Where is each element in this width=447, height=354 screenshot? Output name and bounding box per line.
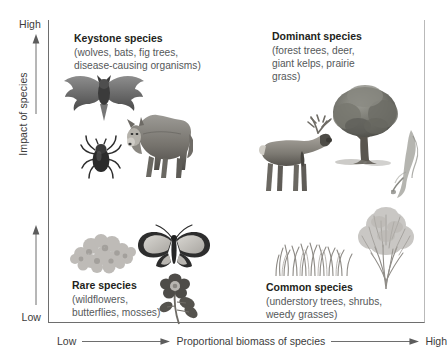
wolf-illustration bbox=[113, 104, 193, 180]
kelp-illustration bbox=[391, 128, 425, 200]
quadrant-title: Common species bbox=[266, 281, 382, 295]
shrub-illustration bbox=[355, 205, 417, 289]
quadrant-label-keystone: Keystone species (wolves, bats, fig tree… bbox=[74, 32, 201, 72]
x-axis-title: Proportional biomass of species bbox=[176, 335, 325, 347]
quadrant-examples: (forest trees, deer, giant kelps, prairi… bbox=[272, 44, 362, 84]
quadrant-examples: (understory trees, shrubs, weedy grasses… bbox=[266, 295, 382, 321]
arrow-up-icon bbox=[31, 225, 41, 305]
y-axis: High Low Impact of species bbox=[0, 12, 48, 327]
grass-illustration bbox=[274, 236, 356, 276]
quadrant-examples: (wolves, bats, fig trees, disease-causin… bbox=[74, 46, 201, 72]
quadrant-title: Rare species bbox=[72, 279, 160, 293]
arrow-up-icon bbox=[31, 34, 41, 114]
x-axis: Low Proportional biomass of species High bbox=[48, 326, 447, 354]
quadrant-label-dominant: Dominant species (forest trees, deer, gi… bbox=[272, 30, 362, 83]
y-axis-title: Impact of species bbox=[17, 44, 29, 184]
quadrant-label-common: Common species (understory trees, shrubs… bbox=[266, 281, 382, 321]
y-axis-low-label: Low bbox=[21, 311, 41, 323]
species-impact-biomass-figure: High Low Impact of species Low bbox=[0, 0, 447, 354]
quadrant-examples: (wildflowers, butterflies, mosses) bbox=[72, 293, 160, 319]
arrow-right-icon bbox=[82, 337, 170, 346]
moss-illustration bbox=[67, 230, 139, 276]
quadrant-title: Dominant species bbox=[272, 30, 362, 44]
butterfly-illustration bbox=[135, 224, 213, 276]
y-axis-high-label: High bbox=[19, 18, 41, 30]
quadrant-label-rare: Rare species (wildflowers, butterflies, … bbox=[72, 279, 160, 319]
arrow-right-icon bbox=[331, 337, 419, 346]
wildflower-illustration bbox=[157, 270, 203, 326]
x-axis-high-label: High bbox=[425, 335, 447, 347]
quadrant-title: Keystone species bbox=[74, 32, 201, 46]
x-axis-low-label: Low bbox=[48, 335, 76, 347]
